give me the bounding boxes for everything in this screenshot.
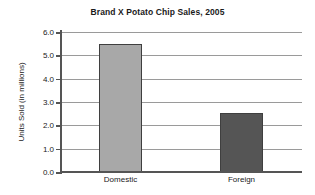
y-axis-tick — [56, 172, 61, 174]
y-axis-tick — [56, 149, 61, 151]
gridline — [60, 32, 302, 33]
x-axis-label-domestic: Domestic — [71, 175, 171, 184]
gridline — [60, 125, 302, 126]
y-axis-tick — [56, 79, 61, 81]
y-axis-label: Units Sold (in millions) — [17, 62, 26, 141]
plot-area — [60, 32, 302, 172]
y-axis-tick-label: 4.0 — [28, 74, 54, 83]
y-axis-tick — [56, 102, 61, 104]
x-axis-line — [60, 171, 302, 173]
y-axis-tick-label: 3.0 — [28, 98, 54, 107]
gridline — [60, 149, 302, 150]
y-axis-tick-label: 1.0 — [28, 144, 54, 153]
y-axis-tick-label: 2.0 — [28, 121, 54, 130]
y-axis-tick-label: 5.0 — [28, 51, 54, 60]
y-axis-tick-label: 6.0 — [28, 28, 54, 37]
chart-container: Brand X Potato Chip Sales, 2005 Units So… — [0, 0, 315, 195]
y-axis-tick — [56, 55, 61, 57]
x-axis-label-foreign: Foreign — [192, 175, 292, 184]
y-axis-tick-label: 0.0 — [28, 168, 54, 177]
y-axis-tick-labels: 0.01.02.03.04.05.06.0 — [26, 0, 54, 195]
y-axis-tick — [56, 125, 61, 127]
gridline — [60, 79, 302, 80]
gridline — [60, 102, 302, 103]
y-axis-tick — [56, 32, 61, 34]
bar-foreign — [220, 113, 263, 173]
gridline — [60, 55, 302, 56]
bar-domestic — [99, 44, 142, 172]
